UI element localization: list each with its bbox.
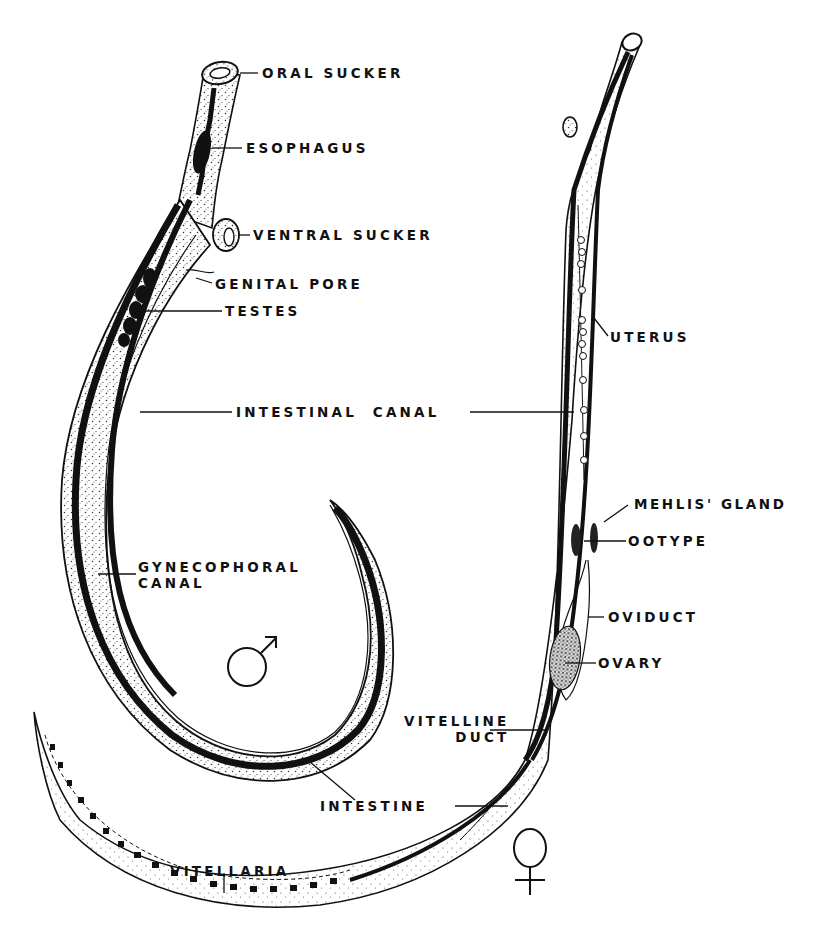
- label-ventral-sucker: VENTRAL SUCKER: [253, 228, 433, 243]
- label-esophagus: ESOPHAGUS: [246, 141, 369, 156]
- label-uterus: UTERUS: [610, 330, 690, 345]
- leader-lines: [98, 73, 628, 893]
- female-ventral-sucker: [563, 117, 577, 137]
- female-worm: [34, 31, 644, 908]
- label-ovary: OVARY: [598, 656, 665, 671]
- label-gynecophoral-canal: GYNECOPHORAL CANAL: [138, 559, 301, 591]
- female-symbol-icon: [514, 829, 546, 895]
- male-symbol-icon: [228, 637, 276, 686]
- female-mehlis-gland-left: [571, 524, 581, 556]
- label-genital-pore: GENITAL PORE: [215, 277, 363, 292]
- label-mehlis-gland: MEHLIS' GLAND: [634, 497, 787, 512]
- label-intestinal-canal: INTESTINAL CANAL: [236, 405, 440, 420]
- female-mehlis-gland-right: [590, 523, 598, 553]
- label-vitelline-duct-line1: VITELLINE: [404, 713, 509, 729]
- label-ootype: OOTYPE: [628, 534, 708, 549]
- label-gynecophoral-canal-line1: GYNECOPHORAL: [138, 559, 301, 575]
- label-vitelline-duct-line2: DUCT: [404, 729, 509, 745]
- label-vitelline-duct: VITELLINE DUCT: [404, 713, 509, 745]
- female-body-outer: [34, 42, 640, 907]
- label-oral-sucker: ORAL SUCKER: [262, 66, 404, 81]
- label-gynecophoral-canal-line2: CANAL: [138, 575, 301, 591]
- label-testes: TESTES: [225, 304, 301, 319]
- label-vitellaria: VITELLARIA: [170, 864, 289, 879]
- label-intestine: INTESTINE: [320, 799, 428, 814]
- label-oviduct: OVIDUCT: [608, 610, 698, 625]
